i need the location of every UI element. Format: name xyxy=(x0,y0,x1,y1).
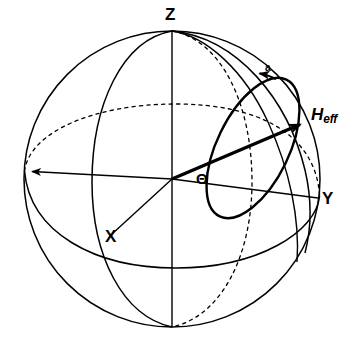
tilted-great-circle-front xyxy=(172,31,310,253)
tilted-great-circle-back xyxy=(172,31,298,262)
precession-label: a xyxy=(265,63,271,73)
y-axis-line xyxy=(172,179,318,198)
theta-arc xyxy=(227,153,232,186)
h-eff-label: Heff xyxy=(311,106,337,125)
x-axis-line xyxy=(112,179,172,234)
h-eff-symbol: H xyxy=(311,105,323,124)
theta-angle-label: Θ xyxy=(196,171,208,186)
negative-axis-arrow xyxy=(32,172,172,180)
h-eff-subscript: eff xyxy=(323,112,337,126)
x-axis-label: X xyxy=(105,228,116,245)
y-axis-label: Y xyxy=(322,190,333,207)
sphere-diagram: Z X Y Θ a Heff xyxy=(0,0,357,352)
z-axis-label: Z xyxy=(165,6,175,23)
figure-canvas xyxy=(0,0,357,352)
precession-direction-arrow xyxy=(260,73,277,79)
